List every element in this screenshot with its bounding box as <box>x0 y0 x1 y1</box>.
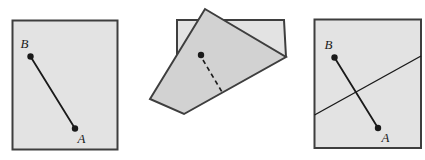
figure-canvas: B A B A <box>0 0 425 160</box>
fold-point-dot <box>198 52 204 58</box>
panel-original-paper: B A <box>13 21 118 150</box>
point-b-label: B <box>325 37 333 52</box>
point-a-dot <box>375 125 381 131</box>
point-b-dot <box>27 53 33 59</box>
panel-folded-paper <box>150 9 286 114</box>
point-b-dot <box>331 54 337 60</box>
point-a-label: A <box>77 131 86 146</box>
point-b-label: B <box>21 36 29 51</box>
paper-folding-figure: B A B A <box>0 0 425 160</box>
panel-unfolded-paper: B A <box>315 20 422 149</box>
point-a-label: A <box>381 130 390 145</box>
